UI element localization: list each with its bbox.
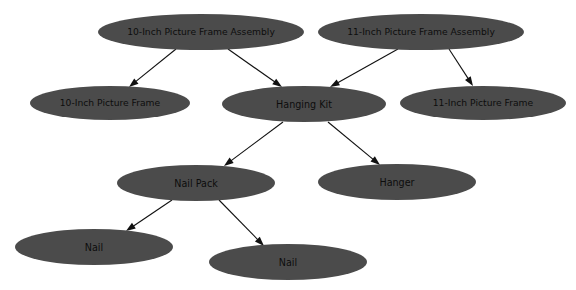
graph-node-nail_right[interactable]: Nail: [209, 244, 367, 280]
graph-node-hanger[interactable]: Hanger: [318, 164, 476, 200]
node-ellipse[interactable]: [318, 164, 476, 200]
node-ellipse[interactable]: [209, 244, 367, 280]
node-ellipse[interactable]: [15, 229, 173, 265]
graph-edge: [219, 200, 264, 246]
edge-arrowhead: [129, 78, 139, 87]
node-ellipse[interactable]: [30, 86, 190, 120]
graph-edge: [328, 122, 380, 165]
edge-arrowhead: [272, 79, 282, 87]
bom-diagram-canvas: 10-Inch Picture Frame Assembly11-Inch Pi…: [0, 0, 576, 290]
graph-node-asm11[interactable]: 11-Inch Picture Frame Assembly: [318, 14, 524, 50]
edges-layer: [126, 49, 473, 246]
graph-edge: [449, 49, 473, 86]
graph-edge: [228, 49, 282, 87]
edge-arrowhead: [126, 223, 136, 231]
graph-edge: [224, 122, 283, 166]
graph-node-frame10[interactable]: 10-Inch Picture Frame: [30, 86, 190, 120]
edge-line: [219, 200, 259, 241]
edge-line: [132, 200, 172, 227]
graph-node-frame11[interactable]: 11-Inch Picture Frame: [400, 86, 566, 120]
nodes-layer: 10-Inch Picture Frame Assembly11-Inch Pi…: [15, 14, 566, 280]
edge-line: [336, 49, 398, 83]
edge-arrowhead: [465, 76, 473, 86]
edge-arrowhead: [330, 79, 340, 87]
edge-line: [328, 122, 374, 160]
node-ellipse[interactable]: [117, 165, 275, 201]
edge-arrowhead: [224, 158, 234, 166]
graph-node-hangingkit[interactable]: Hanging Kit: [222, 86, 386, 122]
graph-edge: [330, 49, 398, 87]
node-ellipse[interactable]: [318, 14, 524, 50]
graph-edge: [129, 49, 176, 87]
edge-line: [230, 122, 283, 162]
edge-line: [228, 49, 276, 83]
graph-node-asm10[interactable]: 10-Inch Picture Frame Assembly: [98, 14, 304, 50]
graph-svg: 10-Inch Picture Frame Assembly11-Inch Pi…: [0, 0, 576, 290]
graph-edge: [126, 200, 172, 231]
graph-node-nail_left[interactable]: Nail: [15, 229, 173, 265]
graph-node-nailpack[interactable]: Nail Pack: [117, 165, 275, 201]
node-ellipse[interactable]: [400, 86, 566, 120]
node-ellipse[interactable]: [98, 14, 304, 50]
edge-line: [135, 49, 176, 82]
edge-line: [449, 49, 469, 80]
node-ellipse[interactable]: [222, 86, 386, 122]
